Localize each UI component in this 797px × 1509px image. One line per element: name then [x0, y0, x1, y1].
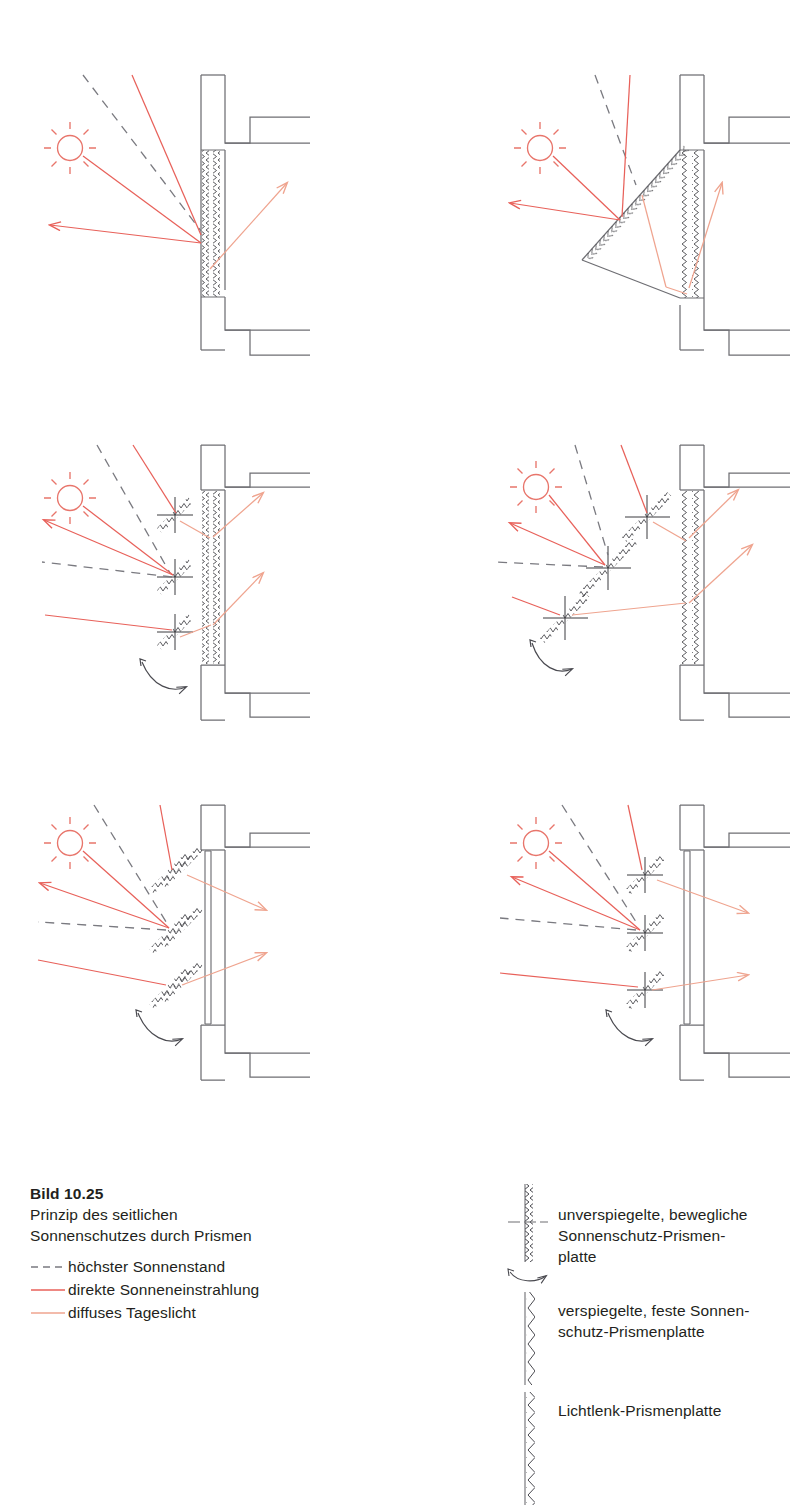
diagram-middle-right [490, 425, 790, 735]
symbol-legend-item-light-directing: Lichtlenk-Prismenplatte [500, 1390, 790, 1509]
symbol-legend-label-line: unverspiegelte, bewegliche [558, 1204, 748, 1225]
symbol-legend-label-line: platte [558, 1246, 597, 1267]
direct-sun-rays [44, 445, 176, 630]
figure-caption-line-1: Prinzip des seitlichen [30, 1204, 360, 1225]
symbol-legend-label-line: schutz-Prismenplatte [558, 1321, 705, 1342]
direct-sun-rays [510, 445, 647, 615]
rotation-arrow-icon [136, 1010, 182, 1041]
fixed-mirrored-prism-panel-icon [500, 1290, 560, 1390]
figure-caption: Bild 10.25 Prinzip des seitlichen Sonnen… [30, 1183, 360, 1246]
sun-icon [44, 472, 96, 524]
sun-icon [510, 817, 562, 869]
diffuse-daylight-rays [572, 490, 752, 615]
prism-louver[interactable] [149, 961, 203, 1009]
rotation-arrow-icon [140, 659, 186, 689]
legend-item-diffuse-light: diffuses Tageslicht [30, 1301, 370, 1324]
highest-sun-position-line [595, 75, 636, 185]
rotation-arrow-icon [606, 1010, 652, 1041]
solid-line-icon [30, 1278, 68, 1301]
legend-label: diffuses Tageslicht [68, 1301, 196, 1324]
direct-sun-rays [38, 805, 172, 985]
building-construction [680, 805, 790, 1080]
rotation-arrow-icon [530, 640, 572, 671]
prism-louver[interactable] [579, 539, 638, 598]
prism-louver[interactable] [157, 614, 193, 650]
dashed-line-icon [30, 1255, 68, 1278]
diffuse-daylight-rays [210, 183, 287, 269]
diagram-top-right [490, 55, 790, 365]
sun-icon [514, 122, 566, 174]
legend-label: höchster Sonnenstand [68, 1255, 225, 1278]
light-directing-prism-panel-icon [500, 1390, 560, 1509]
diffuse-daylight-rays [652, 880, 748, 990]
symbol-legend-label-line: Sonnenschutz-Prismen- [558, 1225, 726, 1246]
highest-sun-position-line [38, 805, 168, 930]
figure-bild-10-25: Bild 10.25 Prinzip des seitlichen Sonnen… [0, 0, 797, 1509]
movable-prism-panel-icon [500, 1182, 560, 1290]
prism-louver[interactable] [626, 914, 665, 953]
diagram-bottom-right [490, 785, 790, 1085]
symbol-legend: unverspiegelte, bewegliche Sonnenschutz-… [500, 1182, 790, 1509]
highest-sun-position-line [495, 445, 608, 567]
prism-louver[interactable] [622, 492, 672, 542]
symbol-legend-label-line: Lichtlenk-Prismenplatte [558, 1400, 721, 1421]
diagram-top-left [20, 55, 310, 365]
symbol-legend-label-line: verspiegelte, feste Sonnen- [558, 1300, 749, 1321]
figure-number: Bild 10.25 [30, 1183, 360, 1204]
prism-glazing-panel [680, 150, 704, 298]
building-construction [201, 805, 310, 1080]
plain-glazing-panel [205, 851, 211, 1024]
highest-sun-position-line [500, 805, 638, 930]
legend-label: direkte Sonneneinstrahlung [68, 1278, 259, 1301]
prism-glazing-panel [202, 491, 220, 664]
legend-item-highest-sun: höchster Sonnenstand [30, 1255, 370, 1278]
direct-sun-rays [50, 75, 201, 243]
prism-louver[interactable] [157, 559, 193, 595]
highest-sun-position-line [42, 445, 172, 577]
prism-glazing-panel [201, 150, 225, 297]
prism-louver[interactable] [149, 846, 203, 894]
prism-glazing-panel [681, 491, 699, 664]
plain-glazing-panel [684, 851, 690, 1024]
sun-icon [44, 817, 96, 869]
bay-prism-panel [586, 146, 690, 261]
symbol-legend-item-fixed-mirrored: verspiegelte, feste Sonnen- schutz-Prism… [500, 1290, 790, 1390]
prism-louver[interactable] [626, 856, 665, 895]
legend-item-direct-sun: direkte Sonneneinstrahlung [30, 1278, 370, 1301]
prism-louver[interactable] [157, 497, 193, 533]
figure-caption-line-2: Sonnenschutzes durch Prismen [30, 1225, 360, 1246]
prism-louver[interactable] [626, 971, 665, 1010]
direct-sun-rays [500, 805, 642, 987]
sun-icon [44, 122, 96, 174]
solid-line-icon [30, 1301, 68, 1324]
diagram-bottom-left [20, 785, 310, 1085]
diagram-middle-left [20, 425, 310, 735]
line-legend: höchster Sonnenstand direkte Sonneneinst… [30, 1255, 370, 1324]
sun-icon [510, 461, 562, 513]
prism-louver[interactable] [540, 593, 590, 643]
symbol-legend-item-movable: unverspiegelte, bewegliche Sonnenschutz-… [500, 1182, 790, 1290]
